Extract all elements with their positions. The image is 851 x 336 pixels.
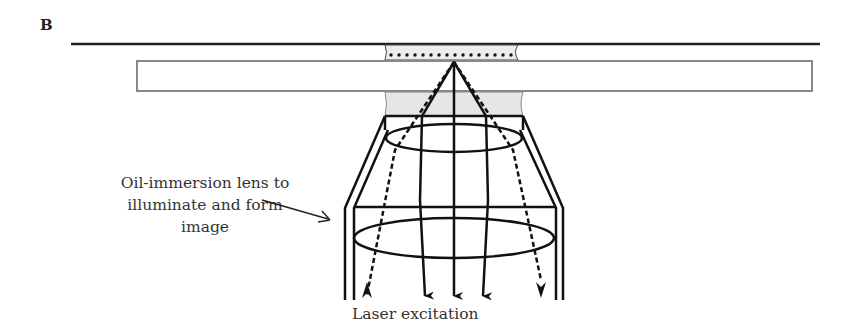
glass-slide [137, 61, 812, 91]
excitation-arrow-down-icon [536, 282, 546, 298]
microscope-diagram [0, 0, 851, 336]
lens-pointer-line [262, 200, 328, 219]
excitation-arrow-up-icon [362, 282, 372, 298]
sample-layer [385, 45, 518, 60]
